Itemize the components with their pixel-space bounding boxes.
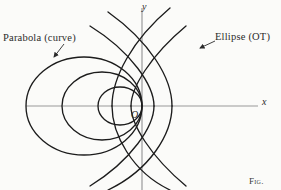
figure-caption: Fig.: [249, 176, 264, 186]
annotation-leaders: [54, 41, 215, 57]
parabola-upper-left-wide: [112, 8, 170, 106]
ellipse-leader-line: [200, 41, 215, 48]
origin-label: O: [131, 110, 138, 120]
parabola-leader-line: [54, 44, 64, 57]
parabola-annotation-label: Parabola (curve): [3, 33, 76, 44]
ellipse-annotation-label: Ellipse (OT): [215, 32, 270, 43]
x-axis-label: x: [262, 97, 266, 107]
y-axis-label: y: [142, 2, 146, 12]
parabolas-group: [90, 8, 186, 190]
parabola-lower-left-wide: [112, 106, 170, 190]
confocal-conics-figure: Parabola (curve) Ellipse (OT) x y O Fig.: [0, 0, 281, 190]
diagram-canvas: [0, 0, 281, 190]
parabola-lower-right: [90, 106, 154, 186]
